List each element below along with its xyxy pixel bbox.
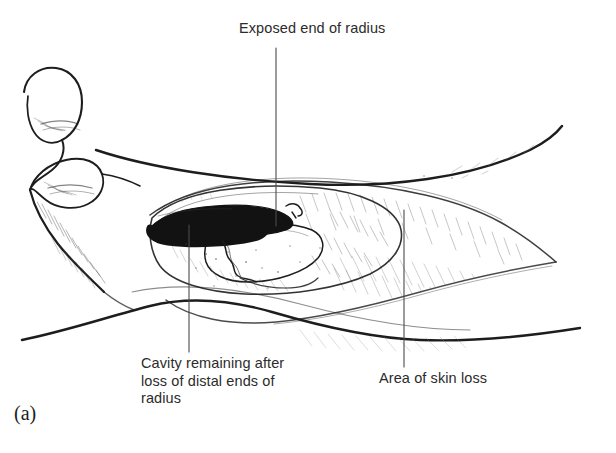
anatomical-line-drawing: [0, 0, 616, 453]
annotation-label-exposed-end-of-radius: Exposed end of radius: [239, 20, 385, 38]
hand-lower-mass: [30, 190, 134, 310]
thumb-upper-contour: [24, 68, 82, 143]
drawing-ink: [22, 48, 580, 367]
annotation-label-area-of-skin-loss: Area of skin loss: [379, 370, 487, 388]
forearm-top-outline: [96, 126, 562, 185]
figure-marker: (a): [14, 402, 36, 425]
annotation-label-cavity-remaining: Cavity remaining after loss of distal en…: [141, 355, 284, 408]
cavity-ragged-edge: [222, 240, 256, 282]
cavity-black-mass: [149, 205, 293, 243]
wound-bed-marks: [286, 204, 302, 218]
figure-panel: Exposed end of radius Cavity remaining a…: [0, 0, 616, 453]
thumb-lower-contour: [30, 140, 103, 208]
